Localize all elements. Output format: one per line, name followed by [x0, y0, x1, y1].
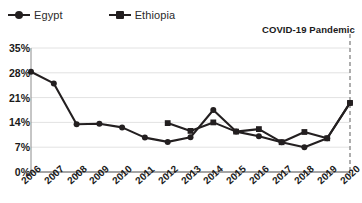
data-point-ethiopia[interactable] — [165, 120, 171, 126]
y-axis-tick-label: 14% — [0, 116, 30, 128]
data-point-ethiopia[interactable] — [279, 139, 285, 145]
data-point-egypt[interactable] — [210, 107, 216, 113]
data-point-egypt[interactable] — [119, 124, 125, 130]
data-point-ethiopia[interactable] — [188, 128, 194, 134]
data-point-ethiopia[interactable] — [210, 120, 216, 126]
data-point-ethiopia[interactable] — [302, 129, 308, 135]
y-axis-tick-label: 7% — [0, 141, 30, 153]
data-point-egypt[interactable] — [188, 134, 194, 140]
data-point-ethiopia[interactable] — [324, 135, 330, 141]
data-point-egypt[interactable] — [301, 144, 307, 150]
y-axis-tick-label: 28% — [0, 67, 30, 79]
data-point-egypt[interactable] — [165, 139, 171, 145]
data-point-ethiopia[interactable] — [256, 126, 262, 132]
y-axis-tick-label: 35% — [0, 42, 30, 54]
data-point-egypt[interactable] — [256, 133, 262, 139]
data-point-egypt[interactable] — [142, 135, 148, 141]
y-axis-tick-label: 21% — [0, 92, 30, 104]
data-point-egypt[interactable] — [74, 121, 80, 127]
data-point-egypt[interactable] — [96, 121, 102, 127]
data-point-egypt[interactable] — [51, 80, 57, 86]
data-point-ethiopia[interactable] — [347, 100, 353, 106]
data-point-ethiopia[interactable] — [233, 129, 239, 135]
